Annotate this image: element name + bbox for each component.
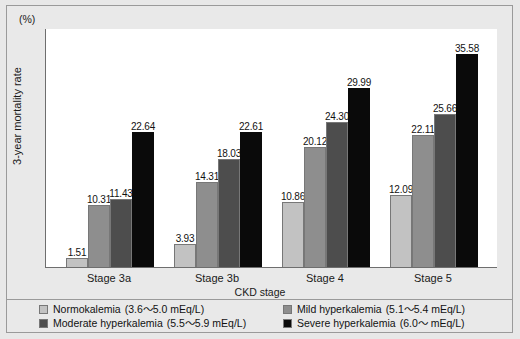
- bar-value-label: 14.31: [195, 171, 219, 182]
- bar[interactable]: 3.93: [174, 244, 196, 267]
- bar[interactable]: 10.31: [88, 205, 110, 267]
- plot-area: 1.5110.3111.4322.643.9314.3118.0322.6110…: [45, 29, 497, 268]
- bar[interactable]: 1.51: [66, 258, 88, 267]
- y-axis: 4035302520151050: [0, 0, 45, 300]
- legend-label: Moderate hyperkalemia: [53, 317, 163, 329]
- bar-group: 1.5110.3111.4322.64: [66, 29, 154, 267]
- bar[interactable]: 12.09: [390, 195, 412, 267]
- bar[interactable]: 14.31: [196, 182, 218, 268]
- bar-value-label: 35.58: [455, 43, 479, 54]
- bar-value-label: 12.09: [389, 184, 413, 195]
- bar-value-label: 25.66: [433, 103, 457, 114]
- bar-group: 3.9314.3118.0322.61: [174, 29, 262, 267]
- legend-range: (6.0～ mEq/L): [400, 317, 465, 329]
- bar-value-label: 18.03: [217, 148, 241, 159]
- x-tick-label: Stage 4: [270, 272, 380, 284]
- bar-value-label: 10.86: [281, 191, 305, 202]
- bar[interactable]: 25.66: [434, 114, 456, 267]
- bar[interactable]: 11.43: [110, 199, 132, 267]
- bar-group: 12.0922.1125.6635.58: [390, 29, 478, 267]
- bar[interactable]: 20.12: [304, 147, 326, 267]
- x-tick-label: Stage 3a: [54, 272, 164, 284]
- bars-layer: 1.5110.3111.4322.643.9314.3118.0322.6110…: [46, 29, 497, 267]
- x-tick-label: Stage 5: [378, 272, 488, 284]
- bar-group: 10.8620.1224.3029.99: [282, 29, 370, 267]
- legend-item[interactable]: Normokalemia(3.6～5.0 mEq/L): [39, 303, 204, 315]
- chart-figure: (%) 3-year mortality rate 40353025201510…: [0, 0, 520, 339]
- legend-swatch: [39, 305, 48, 314]
- bar-value-label: 22.64: [131, 121, 155, 132]
- legend-item[interactable]: Mild hyperkalemia(5.1～5.4 mEq/L): [283, 303, 465, 315]
- bar-value-label: 3.93: [176, 233, 195, 244]
- legend-range: (3.6～5.0 mEq/L): [125, 303, 204, 315]
- legend-range: (5.1～5.4 mEq/L): [386, 303, 465, 315]
- bar[interactable]: 22.64: [132, 132, 154, 267]
- bar[interactable]: 18.03: [218, 159, 240, 267]
- bar-value-label: 11.43: [109, 188, 132, 199]
- legend-range: (5.5～5.9 mEq/L): [167, 317, 246, 329]
- bar[interactable]: 29.99: [348, 88, 370, 267]
- legend-label: Severe hyperkalemia: [297, 317, 396, 329]
- bar-value-label: 20.12: [303, 136, 327, 147]
- legend-item[interactable]: Severe hyperkalemia(6.0～ mEq/L): [283, 317, 465, 329]
- x-axis-title: CKD stage: [0, 286, 520, 298]
- bar-value-label: 22.11: [411, 124, 434, 135]
- bar[interactable]: 22.11: [412, 135, 434, 267]
- chart-legend: Normokalemia(3.6～5.0 mEq/L)Mild hyperkal…: [7, 299, 512, 332]
- bar[interactable]: 22.61: [240, 132, 262, 267]
- bar[interactable]: 10.86: [282, 202, 304, 267]
- bar[interactable]: 35.58: [456, 54, 478, 267]
- legend-label: Mild hyperkalemia: [297, 303, 382, 315]
- bar[interactable]: 24.30: [326, 122, 348, 267]
- bar-value-label: 29.99: [347, 77, 371, 88]
- legend-swatch: [39, 319, 48, 328]
- bar-value-label: 10.31: [87, 194, 111, 205]
- bar-value-label: 24.30: [325, 111, 349, 122]
- legend-swatch: [283, 319, 292, 328]
- bar-value-label: 1.51: [68, 247, 87, 258]
- legend-item[interactable]: Moderate hyperkalemia(5.5～5.9 mEq/L): [39, 317, 246, 329]
- legend-swatch: [283, 305, 292, 314]
- legend-label: Normokalemia: [53, 303, 121, 315]
- bar-value-label: 22.61: [239, 121, 263, 132]
- x-tick-label: Stage 3b: [162, 272, 272, 284]
